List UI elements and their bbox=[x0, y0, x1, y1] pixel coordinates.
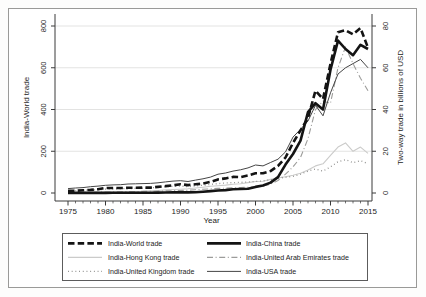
x-axis-tick-label: 2010 bbox=[322, 207, 340, 216]
right-axis-tick-label: 60 bbox=[381, 64, 390, 72]
x-axis-tick-label: 2000 bbox=[247, 207, 265, 216]
x-axis-tick-label: 2015 bbox=[359, 207, 377, 216]
right-axis-tick-label: 80 bbox=[381, 22, 390, 30]
left-axis-tick-label: 800 bbox=[39, 20, 48, 33]
legend-label-india-uae-trade: India-United Arab Emirates trade bbox=[246, 254, 349, 262]
right-axis-tick-label: 0 bbox=[381, 191, 390, 195]
left-axis-tick-label: 0 bbox=[39, 191, 48, 195]
legend-label-india-hong-kong-trade: India-Hong Kong trade bbox=[108, 254, 179, 262]
left-axis-tick-label: 400 bbox=[39, 103, 48, 116]
figure: 0200400600800020406080197519801985199019… bbox=[0, 0, 426, 297]
right-axis-title: Two-way trade in billions of USD bbox=[396, 50, 405, 165]
legend-label-india-united-kingdom-trade: India-United Kingdom trade bbox=[108, 268, 194, 276]
x-axis-tick-label: 1985 bbox=[134, 207, 152, 216]
x-axis-tick-label: 1980 bbox=[97, 207, 115, 216]
x-axis-title: Year bbox=[203, 216, 220, 225]
left-axis-title: India-World trade bbox=[22, 76, 31, 138]
x-axis-tick-label: 1995 bbox=[209, 207, 227, 216]
left-axis-tick-label: 200 bbox=[39, 145, 48, 158]
x-axis-tick-label: 1990 bbox=[172, 207, 190, 216]
india-trade-chart: 0200400600800020406080197519801985199019… bbox=[0, 0, 426, 297]
left-axis-tick-label: 600 bbox=[39, 61, 48, 74]
x-axis-tick-label: 2005 bbox=[284, 207, 302, 216]
x-axis-tick-label: 1975 bbox=[59, 207, 77, 216]
right-axis-tick-label: 20 bbox=[381, 147, 390, 155]
right-axis-tick-label: 40 bbox=[381, 105, 390, 113]
legend-label-india-usa-trade: India-USA trade bbox=[246, 268, 296, 276]
legend-label-india-china-trade: India-China trade bbox=[246, 240, 300, 248]
legend-label-india-world-trade: India-World trade bbox=[108, 240, 162, 248]
